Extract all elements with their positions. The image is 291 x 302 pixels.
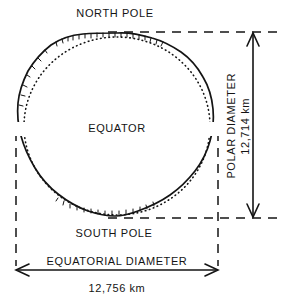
polar-diameter-label-group: POLAR DIAMETER 12,714 km [214,36,291,216]
label-polar-diameter-value: 12,714 km [240,98,251,155]
label-equatorial-diameter-value: 12,756 km [0,283,234,294]
label-equator: EQUATOR [0,122,234,136]
earth-diagram: NORTH POLE EQUATOR SOUTH POLE EQUATORIAL… [0,0,291,302]
label-polar-diameter: POLAR DIAMETER [226,73,237,179]
label-south-pole: SOUTH POLE [0,228,228,239]
label-north-pole: NORTH POLE [0,8,230,19]
label-equator-text: EQUATOR [82,122,152,134]
label-equatorial-diameter: EQUATORIAL DIAMETER [0,256,234,267]
